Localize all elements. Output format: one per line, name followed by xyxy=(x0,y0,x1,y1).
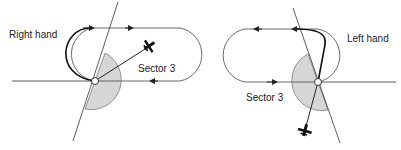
aircraft-icon xyxy=(297,123,314,138)
holding-fix xyxy=(315,79,322,86)
left-hand-holding-diagram xyxy=(223,8,396,143)
holding-fix xyxy=(92,78,99,85)
right-hand-label: Right hand xyxy=(9,29,57,40)
aircraft-icon xyxy=(141,37,159,55)
holding-entry-diagrams xyxy=(0,0,401,150)
sector-3-label-right: Sector 3 xyxy=(246,92,283,103)
entry-path xyxy=(66,28,95,81)
sector-3-label-left: Sector 3 xyxy=(138,63,175,74)
left-hand-label: Left hand xyxy=(347,33,389,44)
